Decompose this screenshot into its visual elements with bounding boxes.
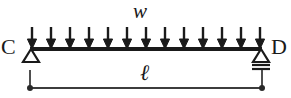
load-arrow xyxy=(122,27,131,49)
load-arrow xyxy=(160,27,169,49)
span-label-l: ℓ xyxy=(140,62,149,84)
right-support-label-d: D xyxy=(271,36,287,58)
dimension-endpoint-dot xyxy=(27,85,33,91)
load-arrow xyxy=(217,27,226,49)
distributed-load-arrow-group xyxy=(27,27,264,49)
left-support-label-c: C xyxy=(1,36,16,58)
load-arrow xyxy=(27,27,36,49)
load-label-w: w xyxy=(133,1,147,22)
right-support-roller xyxy=(252,49,270,69)
load-arrow xyxy=(179,27,188,49)
beam-diagram-figure: w ℓ C D xyxy=(0,0,291,98)
load-arrow xyxy=(198,27,207,49)
load-arrow xyxy=(236,27,245,49)
dimension-endpoint-dot xyxy=(259,85,265,91)
load-arrow xyxy=(255,27,264,49)
load-arrow xyxy=(103,27,112,49)
load-arrow xyxy=(65,27,74,49)
load-arrow xyxy=(46,27,55,49)
load-arrow xyxy=(141,27,150,49)
load-arrow xyxy=(84,27,93,49)
